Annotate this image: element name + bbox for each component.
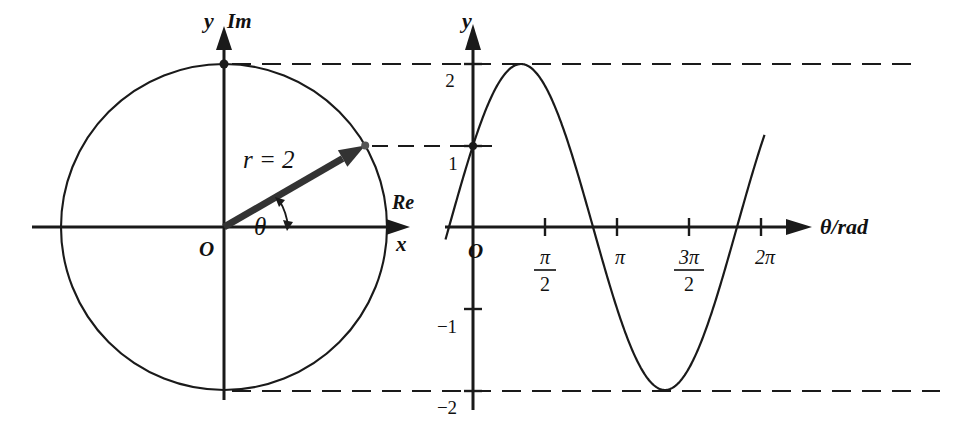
top-of-circle-point <box>220 60 229 69</box>
x-tick-label-2pi: 2π <box>755 246 776 268</box>
y-tick-label-2: 2 <box>445 70 455 91</box>
x-tick-label-pi-over-2-numerator: π <box>540 246 551 268</box>
y-tick-label-minus-1: −1 <box>437 316 457 337</box>
x-tick-label-3pi-over-2-denominator: 2 <box>684 273 694 295</box>
radius-length-label: r = 2 <box>243 146 295 173</box>
left-x-axis-label: x <box>395 232 407 256</box>
complex-number-figure: y Im Re x O r = 2 θ <box>0 0 961 426</box>
y-tick-label-1: 1 <box>448 153 458 174</box>
real-axis-label: Re <box>391 191 414 213</box>
x-tick-label-3pi-over-2-numerator: 3π <box>678 246 700 268</box>
vector-tip-point <box>361 142 369 150</box>
left-origin-label: O <box>199 237 214 261</box>
y-tick-label-minus-2: −2 <box>437 397 457 418</box>
angle-theta-label: θ <box>254 213 266 240</box>
theta-axis-label: θ/rad <box>820 214 869 239</box>
x-tick-label-pi-over-2-denominator: 2 <box>540 273 550 295</box>
graph-start-point <box>469 142 477 150</box>
imaginary-axis-label: Im <box>226 9 252 33</box>
figure-canvas: y Im Re x O r = 2 θ <box>0 0 961 426</box>
right-origin-label: O <box>468 239 483 263</box>
x-tick-label-pi: π <box>615 246 626 268</box>
